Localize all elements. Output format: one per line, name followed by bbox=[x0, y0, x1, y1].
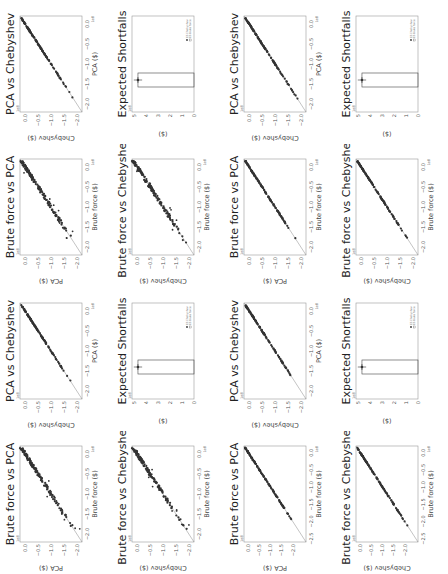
svg-text:−1.0: −1.0 bbox=[308, 481, 314, 493]
svg-text:1e8: 1e8 bbox=[91, 303, 95, 310]
scatter-pca-vs-chebyshev: PCA vs Chebyshev−2.0−1.5−1.0−0.50.0−2.0−… bbox=[224, 1, 336, 144]
svg-text:−1.0: −1.0 bbox=[160, 257, 166, 269]
svg-text:−2.0: −2.0 bbox=[74, 544, 80, 556]
svg-text:−2.0: −2.0 bbox=[84, 98, 90, 110]
subplot-title: Brute force vs PCA bbox=[228, 442, 241, 545]
svg-text:5: 5 bbox=[355, 114, 361, 117]
bar-expected-shortfalls: Expected Shortfalls012345($)1e8ES Chebys… bbox=[112, 288, 224, 431]
svg-text:−2.0: −2.0 bbox=[410, 257, 416, 269]
panel-q1: Brute force vs PCA−2.0−1.5−1.0−0.50.0−2.… bbox=[0, 287, 224, 574]
svg-text:($): ($) bbox=[382, 417, 391, 425]
svg-text:0.0: 0.0 bbox=[84, 450, 90, 458]
svg-text:1e8: 1e8 bbox=[240, 535, 244, 542]
svg-text:−1.0: −1.0 bbox=[272, 257, 278, 269]
svg-text:Brute force ($): Brute force ($) bbox=[427, 183, 435, 231]
scatter-pca-vs-chebyshev: PCA vs Chebyshev−2.0−1.5−1.0−0.50.0−2.0−… bbox=[0, 288, 112, 431]
svg-text:−0.5: −0.5 bbox=[35, 114, 41, 126]
svg-text:1e8: 1e8 bbox=[16, 105, 20, 112]
svg-text:−1.0: −1.0 bbox=[48, 114, 54, 126]
svg-text:−0.5: −0.5 bbox=[196, 468, 202, 480]
svg-text:−1.0: −1.0 bbox=[160, 544, 166, 556]
panel-q2: Brute force vs PCA−2.0−1.5−1.0−0.50.0−2.… bbox=[0, 0, 224, 287]
svg-text:−1.5: −1.5 bbox=[61, 544, 67, 556]
subplot-title: Expected Shortfalls bbox=[340, 297, 353, 404]
svg-text:($): ($) bbox=[158, 417, 167, 425]
svg-text:2: 2 bbox=[391, 114, 397, 117]
subplot-title: Brute force vs PCA bbox=[228, 155, 241, 258]
svg-text:1: 1 bbox=[403, 401, 409, 404]
svg-text:ES Brute force: ES Brute force bbox=[413, 19, 416, 38]
svg-text:1e8: 1e8 bbox=[352, 392, 356, 399]
svg-text:ES Brute force: ES Brute force bbox=[413, 306, 416, 325]
svg-text:−2.0: −2.0 bbox=[186, 257, 192, 269]
svg-text:−2.0: −2.0 bbox=[420, 241, 426, 253]
panel-q3: Brute force vs PCA−2.5−2.0−1.5−1.0−0.50.… bbox=[224, 287, 448, 574]
svg-text:−1.0: −1.0 bbox=[48, 544, 54, 556]
svg-text:−0.5: −0.5 bbox=[259, 257, 265, 269]
svg-text:−2.0: −2.0 bbox=[402, 544, 408, 556]
scatter-bf-vs-chebyshev: Brute force vs Chebyshev−2.0−1.5−1.0−0.5… bbox=[112, 144, 224, 287]
svg-text:0.0: 0.0 bbox=[245, 544, 251, 552]
svg-text:−1.5: −1.5 bbox=[278, 544, 284, 556]
svg-text:−0.5: −0.5 bbox=[84, 181, 90, 193]
svg-text:−2.0: −2.0 bbox=[308, 98, 314, 110]
svg-text:−1.0: −1.0 bbox=[308, 58, 314, 70]
svg-text:Brute force ($): Brute force ($) bbox=[315, 470, 323, 518]
svg-text:−1.5: −1.5 bbox=[84, 78, 90, 90]
panel-q4: Brute force vs PCA−2.0−1.5−1.0−0.50.0−2.… bbox=[224, 0, 448, 287]
svg-text:1e8: 1e8 bbox=[315, 16, 319, 23]
svg-text:−1.0: −1.0 bbox=[267, 544, 273, 556]
svg-text:1: 1 bbox=[179, 114, 185, 117]
svg-text:−1.5: −1.5 bbox=[61, 257, 67, 269]
svg-text:−1.0: −1.0 bbox=[84, 488, 90, 500]
svg-text:0.0: 0.0 bbox=[246, 114, 252, 122]
svg-text:−1.5: −1.5 bbox=[390, 544, 396, 556]
svg-text:−2.0: −2.0 bbox=[290, 544, 296, 556]
svg-text:1e8: 1e8 bbox=[16, 248, 20, 255]
svg-text:−0.5: −0.5 bbox=[196, 181, 202, 193]
svg-text:($): ($) bbox=[382, 130, 391, 138]
scatter-pca-vs-chebyshev: PCA vs Chebyshev−2.0−1.5−1.0−0.50.0−2.0−… bbox=[224, 288, 336, 431]
svg-text:−1.5: −1.5 bbox=[196, 508, 202, 520]
svg-text:PCA ($): PCA ($) bbox=[39, 277, 63, 285]
svg-text:−1.5: −1.5 bbox=[397, 257, 403, 269]
svg-text:Chebyshev ($): Chebyshev ($) bbox=[27, 421, 74, 429]
svg-text:5: 5 bbox=[131, 401, 137, 404]
svg-text:−1.0: −1.0 bbox=[84, 58, 90, 70]
svg-text:Brute force ($): Brute force ($) bbox=[91, 470, 99, 518]
svg-text:1e8: 1e8 bbox=[128, 535, 132, 542]
svg-text:−2.0: −2.0 bbox=[298, 257, 304, 269]
svg-text:1: 1 bbox=[403, 114, 409, 117]
svg-text:1e8: 1e8 bbox=[315, 159, 319, 166]
svg-text:−1.0: −1.0 bbox=[420, 201, 426, 213]
svg-text:4: 4 bbox=[143, 114, 149, 117]
svg-text:1: 1 bbox=[179, 401, 185, 404]
svg-text:1e8: 1e8 bbox=[352, 105, 356, 112]
subplot-title: Expected Shortfalls bbox=[116, 10, 129, 117]
svg-text:Chebyshev ($): Chebyshev ($) bbox=[27, 134, 74, 142]
svg-text:−1.0: −1.0 bbox=[84, 201, 90, 213]
svg-text:0.0: 0.0 bbox=[246, 401, 252, 409]
svg-text:−1.0: −1.0 bbox=[48, 401, 54, 413]
svg-text:Chebyshev ($): Chebyshev ($) bbox=[139, 564, 186, 572]
svg-text:1e8: 1e8 bbox=[427, 159, 431, 166]
svg-text:−1.5: −1.5 bbox=[308, 78, 314, 90]
svg-text:−2.0: −2.0 bbox=[186, 544, 192, 556]
svg-text:Chebyshev ($): Chebyshev ($) bbox=[251, 134, 298, 142]
svg-text:1e8: 1e8 bbox=[203, 159, 207, 166]
svg-text:Chebyshev ($): Chebyshev ($) bbox=[251, 421, 298, 429]
svg-text:−2.0: −2.0 bbox=[196, 528, 202, 540]
svg-text:−1.5: −1.5 bbox=[285, 114, 291, 126]
figure-page: Brute force vs PCA−2.0−1.5−1.0−0.50.0−2.… bbox=[0, 0, 448, 574]
svg-text:−2.5: −2.5 bbox=[420, 532, 426, 544]
svg-text:−1.0: −1.0 bbox=[272, 401, 278, 413]
svg-text:0.0: 0.0 bbox=[420, 449, 426, 457]
scatter-bf-vs-chebyshev: Brute force vs Chebyshev−2.5−2.0−1.5−1.0… bbox=[336, 431, 448, 574]
svg-text:PCA ($): PCA ($) bbox=[91, 52, 99, 76]
svg-text:−1.0: −1.0 bbox=[308, 201, 314, 213]
svg-text:ES Brute force: ES Brute force bbox=[189, 306, 192, 325]
svg-text:Brute force ($): Brute force ($) bbox=[203, 470, 211, 518]
subplot-title: PCA vs Chebyshev bbox=[4, 300, 17, 402]
svg-text:1e8: 1e8 bbox=[352, 535, 356, 542]
subplot-title: Brute force vs Chebyshev bbox=[116, 431, 129, 565]
